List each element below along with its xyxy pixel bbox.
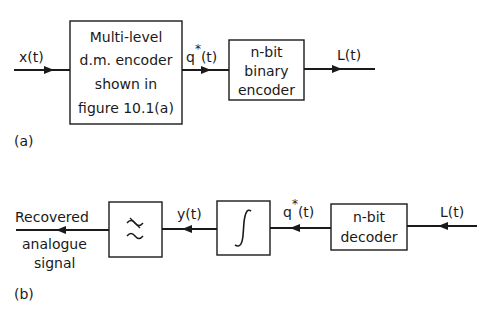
integrator-output-label: y(t) <box>177 206 202 222</box>
diagram-b: L(t) n-bit decoder q*(t) y(t) Recovered … <box>14 197 477 302</box>
decoder-line2: decoder <box>340 229 397 245</box>
panel-label-b: (b) <box>14 286 34 302</box>
arrow-right-icon <box>332 65 342 73</box>
output-label-line3: signal <box>34 255 75 271</box>
low-pass-filter-block <box>109 202 162 257</box>
output-signal-label: L(t) <box>337 47 361 63</box>
mid-signal-label: q*(t) <box>283 197 314 220</box>
decoder-line1: n-bit <box>353 209 386 225</box>
block2-line1: n-bit <box>250 44 283 60</box>
arrow-left-icon <box>438 222 448 230</box>
diagram-a: x(t) Multi-level d.m. encoder shown in f… <box>14 21 375 149</box>
block1-line3: shown in <box>95 76 157 92</box>
block2-line2: binary <box>244 63 288 79</box>
input-signal-label: L(t) <box>440 204 464 220</box>
panel-label-a: (a) <box>14 133 34 149</box>
arrow-right-icon <box>201 66 211 74</box>
arrow-left-icon <box>290 224 300 232</box>
output-label-line2: analogue <box>22 236 87 252</box>
diagram-canvas: x(t) Multi-level d.m. encoder shown in f… <box>0 0 493 321</box>
arrow-left-icon <box>56 226 66 234</box>
block1-line4: figure 10.1(a) <box>78 100 174 116</box>
output-label-line1: Recovered <box>15 209 89 225</box>
input-signal-label: x(t) <box>19 49 44 65</box>
mid-signal-label: q*(t) <box>186 42 217 65</box>
arrow-left-icon <box>182 225 192 233</box>
block1-line1: Multi-level <box>90 29 163 45</box>
block1-line2: d.m. encoder <box>80 52 173 68</box>
arrow-right-icon <box>44 66 54 74</box>
block2-line3: encoder <box>238 82 295 98</box>
